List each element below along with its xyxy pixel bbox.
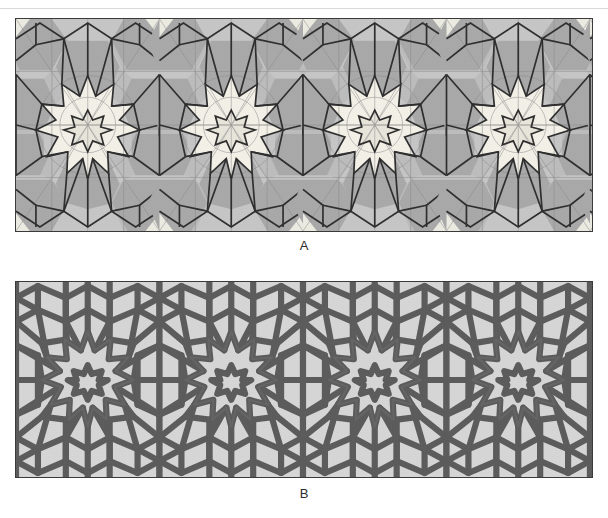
cut-off-header-text: [430, 0, 600, 7]
top-hairline-divider: [0, 8, 608, 9]
panel-a-label: A: [0, 238, 608, 253]
panel-b-interlaced-strapwork: [15, 281, 593, 478]
panel-a-polygonal-construction: [15, 18, 593, 232]
panel-a-svg: [16, 19, 592, 231]
panel-b-label: B: [0, 486, 608, 501]
panel-b-svg: [16, 282, 592, 477]
figure-root: A: [0, 0, 608, 518]
